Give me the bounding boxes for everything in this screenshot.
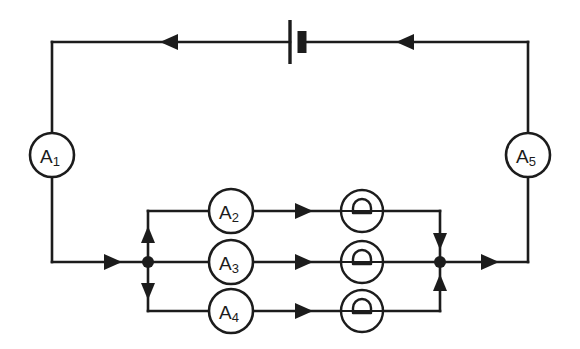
circuit-canvas: A1 A2 A3 A4 A5 bbox=[0, 0, 580, 349]
resistor-top bbox=[341, 190, 383, 232]
arrow-branch-top-icon bbox=[295, 203, 313, 219]
ammeter-a5: A5 bbox=[506, 133, 550, 177]
circuit-diagram: A1 A2 A3 A4 A5 bbox=[0, 0, 580, 349]
battery-cell bbox=[290, 20, 302, 64]
junction-left-dot bbox=[142, 256, 154, 268]
arrow-branch-down-left-icon bbox=[141, 283, 155, 300]
arrow-top-right-icon bbox=[396, 34, 414, 50]
arrow-bottom-right-icon bbox=[481, 254, 499, 270]
arrow-top-left-icon bbox=[160, 34, 178, 50]
junction-right-dot bbox=[434, 256, 446, 268]
branch-wires bbox=[148, 211, 440, 311]
outer-loop-wires bbox=[52, 42, 528, 262]
arrow-branch-bottom-icon bbox=[295, 303, 313, 319]
resistor-bottom bbox=[341, 290, 383, 332]
ammeter-a4: A4 bbox=[209, 289, 253, 333]
current-arrows bbox=[104, 34, 499, 319]
arrow-bottom-left-icon bbox=[104, 254, 122, 270]
arrow-branch-down-right-icon bbox=[433, 233, 447, 250]
arrow-branch-up-left-icon bbox=[141, 226, 155, 243]
arrow-branch-up-right-icon bbox=[433, 274, 447, 291]
ammeter-a1: A1 bbox=[30, 133, 74, 177]
ammeter-a3: A3 bbox=[209, 240, 253, 284]
arrow-branch-middle-icon bbox=[295, 254, 313, 270]
ammeter-a2: A2 bbox=[209, 189, 253, 233]
resistor-middle bbox=[341, 241, 383, 283]
